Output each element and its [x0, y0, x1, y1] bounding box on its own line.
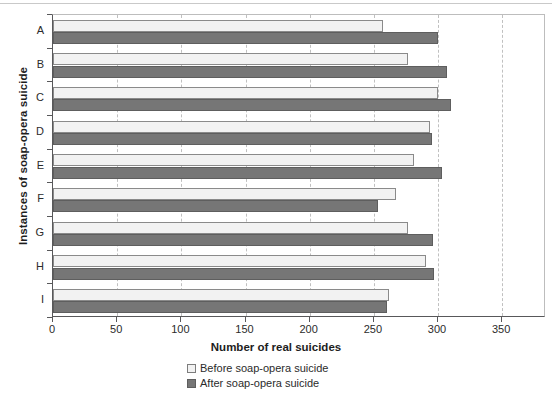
- y-tick-1: [47, 48, 52, 49]
- y-tick-6: [47, 216, 52, 217]
- bar-f-after: [53, 200, 378, 212]
- y-tick-0: [47, 14, 52, 15]
- y-tick-5: [47, 182, 52, 183]
- legend-swatch-before-icon: [187, 364, 196, 373]
- y-category-label-f: F: [4, 193, 44, 204]
- chart-legend: Before soap-opera suicideAfter soap-oper…: [0, 362, 552, 389]
- y-category-label-d: D: [4, 126, 44, 137]
- bar-a-before: [53, 20, 383, 32]
- bar-f-before: [53, 188, 396, 200]
- y-category-label-a: A: [4, 25, 44, 36]
- plot-area: [52, 14, 545, 317]
- bar-e-before: [53, 154, 414, 166]
- bar-group-f: [53, 183, 544, 217]
- bar-c-before: [53, 87, 438, 99]
- legend-label-before: Before soap-opera suicide: [200, 362, 328, 374]
- bar-h-after: [53, 268, 434, 280]
- bar-group-h: [53, 251, 544, 285]
- y-category-label-b: B: [4, 59, 44, 70]
- legend-swatch-after-icon: [187, 379, 196, 388]
- x-axis-title: Number of real suicides: [0, 341, 552, 353]
- y-tick-8: [47, 283, 52, 284]
- bar-group-e: [53, 150, 544, 184]
- x-tick-label-150: 150: [220, 323, 270, 335]
- x-tick-300: [437, 317, 438, 322]
- bar-b-after: [53, 66, 447, 78]
- y-category-label-i: I: [4, 294, 44, 305]
- bar-d-before: [53, 121, 430, 133]
- x-tick-0: [52, 317, 53, 322]
- y-category-label-h: H: [4, 261, 44, 272]
- y-tick-3: [47, 115, 52, 116]
- bar-g-after: [53, 234, 433, 246]
- bar-c-after: [53, 99, 451, 111]
- bar-group-a: [53, 15, 544, 49]
- y-category-label-c: C: [4, 92, 44, 103]
- legend-item-before: Before soap-opera suicide: [187, 362, 365, 374]
- y-tick-7: [47, 250, 52, 251]
- x-tick-label-50: 50: [91, 323, 141, 335]
- x-tick-50: [116, 317, 117, 322]
- legend-label-after: After soap-opera suicide: [200, 377, 319, 389]
- x-tick-label-350: 350: [476, 323, 526, 335]
- bar-group-b: [53, 49, 544, 83]
- chart-figure: Instances of soap-opera suicide ABCDEFGH…: [0, 0, 552, 420]
- x-tick-200: [309, 317, 310, 322]
- x-tick-350: [501, 317, 502, 322]
- bar-group-c: [53, 82, 544, 116]
- bar-group-i: [53, 284, 544, 316]
- x-tick-label-250: 250: [348, 323, 398, 335]
- x-tick-label-0: 0: [27, 323, 77, 335]
- bar-group-g: [53, 217, 544, 251]
- bar-i-after: [53, 301, 387, 313]
- bar-b-before: [53, 53, 408, 65]
- y-tick-4: [47, 149, 52, 150]
- bar-h-before: [53, 255, 426, 267]
- y-category-label-g: G: [4, 227, 44, 238]
- bar-i-before: [53, 289, 389, 301]
- bar-e-after: [53, 167, 442, 179]
- y-tick-2: [47, 81, 52, 82]
- bar-group-d: [53, 116, 544, 150]
- bar-d-after: [53, 133, 432, 145]
- bar-a-after: [53, 32, 438, 44]
- top-divider: [0, 3, 552, 4]
- x-tick-label-100: 100: [155, 323, 205, 335]
- y-category-label-e: E: [4, 160, 44, 171]
- plot-inner: [53, 15, 544, 316]
- x-tick-100: [180, 317, 181, 322]
- x-tick-label-300: 300: [412, 323, 462, 335]
- legend-item-after: After soap-opera suicide: [187, 377, 365, 389]
- x-tick-150: [245, 317, 246, 322]
- x-tick-label-200: 200: [284, 323, 334, 335]
- bar-g-before: [53, 222, 408, 234]
- x-tick-250: [373, 317, 374, 322]
